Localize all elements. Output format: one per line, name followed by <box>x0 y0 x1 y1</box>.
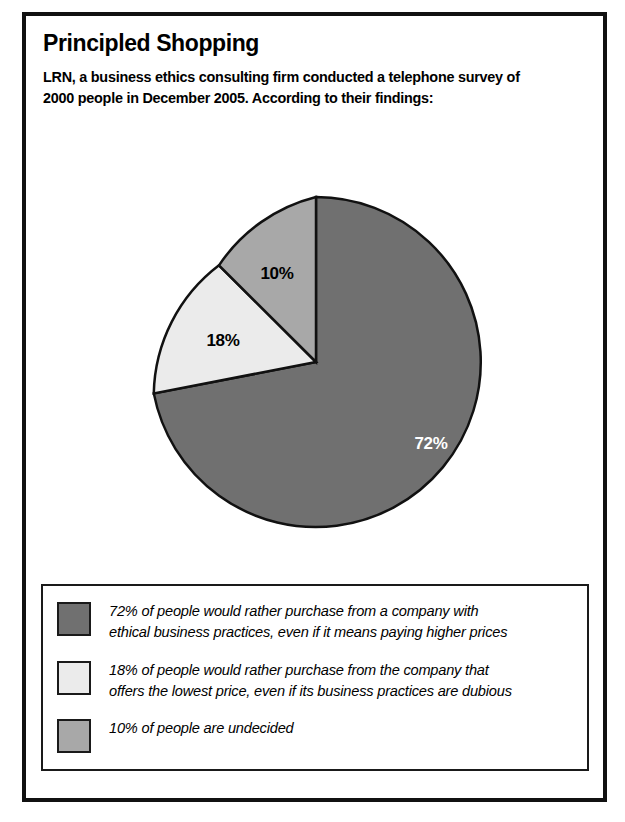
pie-label-18: 18% <box>206 331 239 350</box>
page-title: Principled Shopping <box>43 31 588 55</box>
legend-swatch-icon <box>57 661 91 695</box>
legend-text-line: offers the lowest price, even if its bus… <box>109 681 512 702</box>
subtitle-line-2: 2000 people in December 2005. According … <box>43 90 433 106</box>
pie-label-10: 10% <box>260 264 293 283</box>
pie-label-72: 72% <box>414 434 447 453</box>
legend-text-line: 72% of people would rather purchase from… <box>109 601 507 622</box>
pie-chart-svg: 72% 18% 10% <box>27 145 604 565</box>
legend-text-line: 10% of people are undecided <box>109 718 293 739</box>
legend-item[interactable]: 18% of people would rather purchase from… <box>57 659 577 703</box>
subtitle-line-1: LRN, a business ethics consulting firm c… <box>43 69 520 85</box>
header-block: Principled Shopping LRN, a business ethi… <box>43 31 588 108</box>
legend-item[interactable]: 10% of people are undecided <box>57 717 577 753</box>
figure-frame: Principled Shopping LRN, a business ethi… <box>22 12 607 802</box>
legend-item-text: 72% of people would rather purchase from… <box>109 600 507 644</box>
legend-item-text: 18% of people would rather purchase from… <box>109 659 512 703</box>
legend: 72% of people would rather purchase from… <box>41 584 589 771</box>
legend-item-text: 10% of people are undecided <box>109 717 293 739</box>
legend-swatch-icon <box>57 602 91 636</box>
pie-chart: 72% 18% 10% <box>27 145 604 565</box>
figure-inner-border: Principled Shopping LRN, a business ethi… <box>26 16 603 798</box>
chart-subtitle: LRN, a business ethics consulting firm c… <box>43 67 583 108</box>
legend-text-line: 18% of people would rather purchase from… <box>109 660 512 681</box>
legend-text-line: ethical business practices, even if it m… <box>109 622 507 643</box>
legend-swatch-icon <box>57 719 91 753</box>
legend-item[interactable]: 72% of people would rather purchase from… <box>57 600 577 644</box>
